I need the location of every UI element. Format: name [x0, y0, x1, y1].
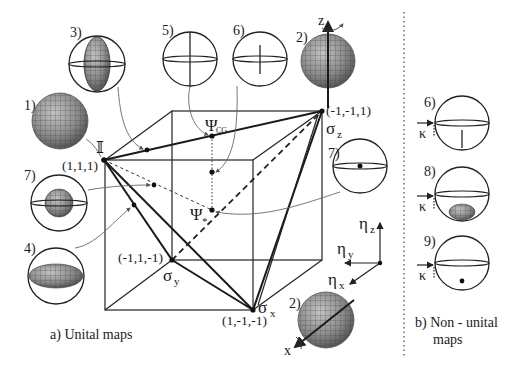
sigma-z-point — [319, 108, 324, 113]
sphere-7-left: 7) — [24, 168, 87, 231]
sigma-x-coord: (1,-1,-1) — [222, 313, 267, 328]
svg-text:2): 2) — [289, 296, 301, 312]
sigma-z-subscript: z — [337, 128, 342, 140]
sigma-x-point — [250, 307, 255, 312]
psi-cg-subscript: CG — [216, 126, 227, 135]
sphere-6-right: 6) κ — [417, 95, 489, 150]
sigma-z-symbol: σ — [326, 119, 335, 138]
eta-x-symbol: η — [328, 270, 337, 289]
edge-point-middle — [152, 183, 157, 188]
sigma-y-point — [169, 257, 174, 262]
svg-text:6): 6) — [233, 23, 245, 39]
eta-x-subscript: x — [339, 279, 345, 291]
caption-non-unital-line1: b) Non - unital — [415, 315, 498, 331]
sigma-y-subscript: y — [174, 275, 180, 287]
identity-symbol: 𝕀 — [96, 138, 104, 157]
edge-point-lower — [132, 203, 137, 208]
svg-text:5): 5) — [162, 23, 174, 39]
svg-text:3): 3) — [70, 25, 82, 41]
rotation-axis-z-label: z — [318, 13, 324, 28]
eta-y-subscript: y — [348, 248, 354, 260]
sphere-2-bottom: 2) x — [284, 292, 354, 358]
eta-z-symbol: η — [359, 214, 368, 233]
sphere-7-right: 7) — [328, 139, 387, 193]
svg-text:2): 2) — [296, 30, 308, 46]
eta-axes: η z η y η x — [328, 214, 382, 291]
sphere-5: 5) — [162, 23, 217, 86]
eta-y-symbol: η — [337, 239, 346, 258]
midpoint — [209, 169, 214, 174]
sigma-z-coord: (-1,-1,1) — [326, 103, 371, 118]
psi-star-point — [209, 207, 214, 212]
sphere-9: 9) κ — [417, 234, 489, 290]
sphere-6-top: 6) — [233, 23, 287, 86]
sigma-x-subscript: x — [270, 307, 276, 319]
caption-unital: a) Unital maps — [50, 327, 132, 343]
sphere-3: 3) — [69, 25, 125, 92]
sphere-2-top: 2) z — [296, 13, 355, 108]
sphere-4: 4) — [24, 241, 84, 304]
edge-point-top — [145, 148, 150, 153]
identity-point — [101, 157, 107, 163]
identity-coord: (1,1,1) — [62, 158, 98, 173]
svg-text:7): 7) — [24, 168, 36, 184]
svg-text:9): 9) — [424, 234, 436, 250]
sigma-y-coord: (-1,1,-1) — [118, 250, 163, 265]
eta-z-subscript: z — [370, 223, 375, 235]
quantum-channel-tetrahedron-diagram: 𝕀 (1,1,1) (-1,-1,1) σ z (-1,1,-1) σ y σ … — [0, 0, 518, 376]
sigma-y-symbol: σ — [163, 266, 172, 285]
psi-star-subscript: * — [202, 215, 208, 227]
svg-text:8): 8) — [424, 164, 436, 180]
kappa-symbol-6: κ — [419, 126, 426, 141]
kappa-symbol-8: κ — [419, 199, 426, 214]
caption-non-unital-line2: maps — [433, 332, 463, 347]
svg-text:6): 6) — [424, 95, 436, 111]
sphere-8: 8) κ — [417, 164, 489, 221]
sphere-1: 1) — [24, 93, 88, 149]
kappa-symbol-9: κ — [419, 268, 426, 283]
svg-text:4): 4) — [24, 241, 36, 257]
rotation-axis-x-label: x — [284, 343, 291, 358]
